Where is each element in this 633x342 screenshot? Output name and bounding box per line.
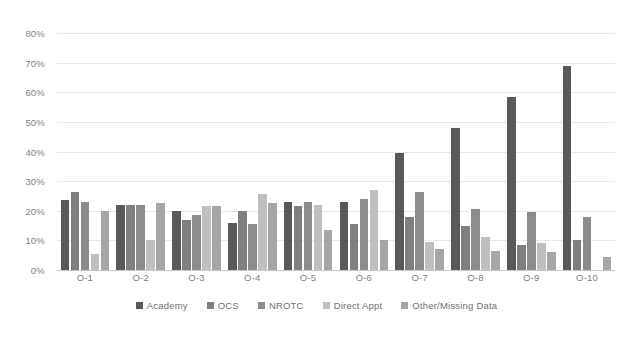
legend-swatch-icon bbox=[323, 302, 330, 309]
y-axis-tick-label: 20% bbox=[25, 205, 45, 216]
bar-direct-appt-o-6[interactable] bbox=[370, 190, 379, 270]
bar-ocs-o-8[interactable] bbox=[461, 226, 470, 270]
bar-slot bbox=[593, 33, 602, 270]
bar-group-o-10 bbox=[559, 33, 615, 270]
legend-item-nrotc[interactable]: NROTC bbox=[258, 300, 304, 311]
x-axis-tick-label: O-6 bbox=[336, 272, 392, 283]
bar-slot bbox=[517, 33, 526, 270]
bar-slot bbox=[182, 33, 191, 270]
bar-direct-appt-o-8[interactable] bbox=[481, 237, 490, 270]
legend-item-direct-appt[interactable]: Direct Appt bbox=[323, 300, 383, 311]
bar-nrotc-o-8[interactable] bbox=[471, 209, 480, 270]
bar-slot bbox=[294, 33, 303, 270]
legend-swatch-icon bbox=[207, 302, 214, 309]
bar-ocs-o-6[interactable] bbox=[350, 224, 359, 270]
legend-item-other-missing-data[interactable]: Other/Missing Data bbox=[401, 300, 497, 311]
bar-slot bbox=[435, 33, 444, 270]
bar-direct-appt-o-4[interactable] bbox=[258, 194, 267, 270]
bar-slot bbox=[71, 33, 80, 270]
bar-ocs-o-10[interactable] bbox=[573, 240, 582, 270]
bar-ocs-o-3[interactable] bbox=[182, 220, 191, 270]
bar-direct-appt-o-9[interactable] bbox=[537, 243, 546, 270]
bar-group-o-8 bbox=[448, 33, 504, 270]
bar-nrotc-o-6[interactable] bbox=[360, 199, 369, 270]
bar-other-missing-data-o-6[interactable] bbox=[380, 240, 389, 270]
bar-other-missing-data-o-1[interactable] bbox=[101, 211, 110, 270]
bar-slot bbox=[563, 33, 572, 270]
bar-slot bbox=[507, 33, 516, 270]
bar-academy-o-2[interactable] bbox=[116, 205, 125, 270]
bar-ocs-o-7[interactable] bbox=[405, 217, 414, 270]
bar-direct-appt-o-7[interactable] bbox=[425, 242, 434, 270]
bar-slot bbox=[156, 33, 165, 270]
legend-swatch-icon bbox=[258, 302, 265, 309]
bar-direct-appt-o-5[interactable] bbox=[314, 205, 323, 270]
bar-academy-o-10[interactable] bbox=[563, 66, 572, 270]
bar-slot bbox=[61, 33, 70, 270]
bar-nrotc-o-9[interactable] bbox=[527, 212, 536, 270]
bar-direct-appt-o-2[interactable] bbox=[146, 240, 155, 270]
bar-slot bbox=[192, 33, 201, 270]
bar-other-missing-data-o-5[interactable] bbox=[324, 230, 333, 270]
bar-nrotc-o-5[interactable] bbox=[304, 202, 313, 270]
bar-other-missing-data-o-9[interactable] bbox=[547, 252, 556, 270]
x-axis-tick-label: O-1 bbox=[57, 272, 113, 283]
bar-academy-o-3[interactable] bbox=[172, 211, 181, 270]
bar-other-missing-data-o-2[interactable] bbox=[156, 203, 165, 270]
y-axis-tick-label: 70% bbox=[25, 57, 45, 68]
bar-slot bbox=[370, 33, 379, 270]
bar-academy-o-8[interactable] bbox=[451, 128, 460, 270]
bar-slot bbox=[350, 33, 359, 270]
bar-direct-appt-o-1[interactable] bbox=[91, 254, 100, 270]
bar-slot bbox=[360, 33, 369, 270]
bar-academy-o-1[interactable] bbox=[61, 200, 70, 270]
bar-groups bbox=[57, 33, 615, 270]
bar-other-missing-data-o-8[interactable] bbox=[491, 251, 500, 270]
x-axis-tick-label: O-10 bbox=[559, 272, 615, 283]
legend-item-label: Academy bbox=[147, 300, 188, 311]
bar-slot bbox=[91, 33, 100, 270]
bar-slot bbox=[248, 33, 257, 270]
bar-slot bbox=[314, 33, 323, 270]
bar-slot bbox=[101, 33, 110, 270]
bar-academy-o-4[interactable] bbox=[228, 223, 237, 270]
bar-ocs-o-1[interactable] bbox=[71, 192, 80, 271]
y-axis-tick-label: 60% bbox=[25, 87, 45, 98]
axis-baseline bbox=[57, 270, 615, 271]
bar-direct-appt-o-3[interactable] bbox=[202, 206, 211, 270]
bar-slot bbox=[527, 33, 536, 270]
bar-slot bbox=[268, 33, 277, 270]
bar-group-o-1 bbox=[57, 33, 113, 270]
legend-item-ocs[interactable]: OCS bbox=[207, 300, 239, 311]
bar-group-o-2 bbox=[113, 33, 169, 270]
legend-swatch-icon bbox=[401, 302, 408, 309]
bar-other-missing-data-o-3[interactable] bbox=[212, 206, 221, 270]
x-axis-tick-label: O-4 bbox=[224, 272, 280, 283]
bar-slot bbox=[425, 33, 434, 270]
y-axis-tick-label: 0% bbox=[31, 265, 45, 276]
bar-academy-o-9[interactable] bbox=[507, 97, 516, 270]
bar-ocs-o-5[interactable] bbox=[294, 206, 303, 270]
bar-slot bbox=[212, 33, 221, 270]
bar-ocs-o-2[interactable] bbox=[126, 205, 135, 270]
bar-nrotc-o-4[interactable] bbox=[248, 224, 257, 270]
bar-slot bbox=[238, 33, 247, 270]
bar-academy-o-7[interactable] bbox=[395, 153, 404, 270]
bar-nrotc-o-2[interactable] bbox=[136, 205, 145, 270]
bar-slot bbox=[116, 33, 125, 270]
bar-ocs-o-9[interactable] bbox=[517, 245, 526, 270]
bar-academy-o-6[interactable] bbox=[340, 202, 349, 270]
bar-ocs-o-4[interactable] bbox=[238, 211, 247, 270]
bar-academy-o-5[interactable] bbox=[284, 202, 293, 270]
bar-slot bbox=[126, 33, 135, 270]
bar-other-missing-data-o-7[interactable] bbox=[435, 249, 444, 270]
bar-slot bbox=[146, 33, 155, 270]
bar-nrotc-o-3[interactable] bbox=[192, 215, 201, 270]
bar-nrotc-o-1[interactable] bbox=[81, 202, 90, 270]
bar-other-missing-data-o-10[interactable] bbox=[603, 257, 612, 270]
legend-item-academy[interactable]: Academy bbox=[136, 300, 188, 311]
bar-slot bbox=[451, 33, 460, 270]
bar-other-missing-data-o-4[interactable] bbox=[268, 203, 277, 270]
bar-nrotc-o-7[interactable] bbox=[415, 192, 424, 271]
bar-nrotc-o-10[interactable] bbox=[583, 217, 592, 270]
